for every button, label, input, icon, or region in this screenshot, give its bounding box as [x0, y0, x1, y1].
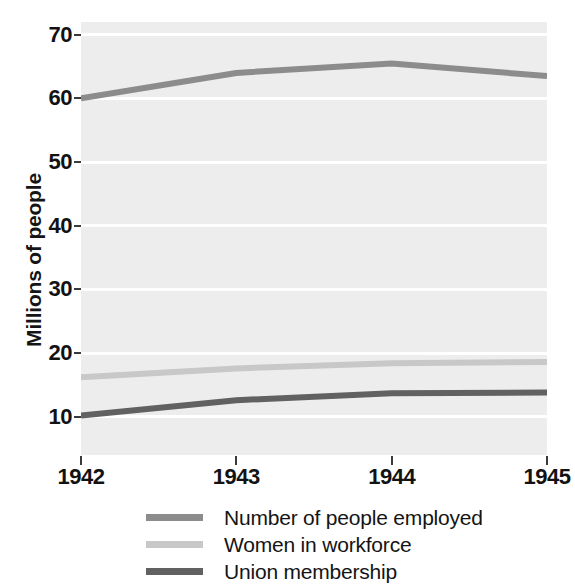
y-tick-mark-20	[74, 352, 81, 354]
plot-area	[81, 22, 547, 455]
legend-swatch-icon	[146, 568, 203, 575]
x-tick-label-1943: 1943	[176, 466, 296, 488]
x-tick-label-1944: 1944	[332, 466, 452, 488]
series-lines	[81, 22, 547, 455]
y-tick-label-10: 10	[26, 406, 72, 428]
y-tick-mark-50	[74, 161, 81, 163]
y-tick-label-50: 50	[26, 151, 72, 173]
y-tick-mark-30	[74, 288, 81, 290]
legend-swatch-icon	[146, 541, 203, 548]
y-tick-mark-10	[74, 416, 81, 418]
series-line-1	[81, 362, 547, 377]
legend-item[interactable]: Women in workforce	[146, 531, 566, 558]
y-tick-mark-70	[74, 34, 81, 36]
chart-legend: Number of people employedWomen in workfo…	[146, 504, 566, 585]
x-tick-label-1945: 1945	[487, 466, 575, 488]
y-tick-label-30: 30	[26, 278, 72, 300]
y-tick-label-60: 60	[26, 87, 72, 109]
y-tick-mark-60	[74, 97, 81, 99]
legend-label: Number of people employed	[224, 506, 483, 530]
legend-label: Women in workforce	[224, 533, 411, 557]
y-tick-label-40: 40	[26, 215, 72, 237]
y-tick-label-70: 70	[26, 24, 72, 46]
x-tick-label-1942: 1942	[21, 466, 141, 488]
y-tick-mark-40	[74, 225, 81, 227]
series-line-0	[81, 63, 547, 98]
series-line-2	[81, 393, 547, 416]
y-tick-label-20: 20	[26, 342, 72, 364]
legend-label: Union membership	[224, 560, 397, 584]
legend-item[interactable]: Union membership	[146, 558, 566, 585]
legend-swatch-icon	[146, 514, 203, 521]
legend-item[interactable]: Number of people employed	[146, 504, 566, 531]
